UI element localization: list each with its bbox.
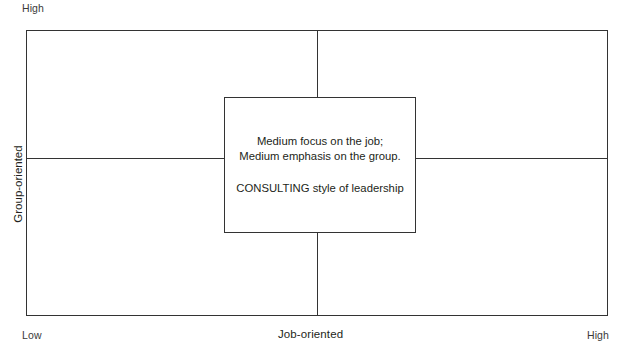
y-axis-high-label: High bbox=[22, 2, 44, 14]
x-axis-title: Job-oriented bbox=[278, 328, 343, 340]
center-callout-box: Medium focus on the job; Medium emphasis… bbox=[224, 97, 416, 233]
leadership-grid-diagram: High Group-oriented Medium focus on the … bbox=[0, 0, 626, 348]
callout-line-2: Medium emphasis on the group. bbox=[239, 149, 400, 165]
x-axis-low-label: Low bbox=[22, 329, 42, 341]
callout-line-3: CONSULTING style of leadership bbox=[236, 181, 403, 197]
y-axis-title: Group-oriented bbox=[12, 124, 24, 244]
x-axis-high-label: High bbox=[587, 329, 609, 341]
callout-line-1: Medium focus on the job; bbox=[257, 134, 383, 150]
